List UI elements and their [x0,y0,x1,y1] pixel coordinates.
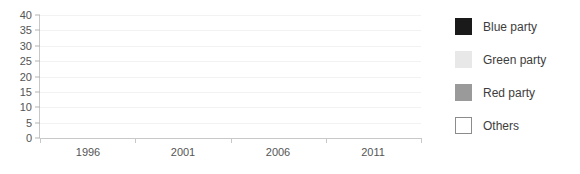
y-tick-label: 10 [20,102,40,113]
gridline [40,77,421,78]
gridline [40,30,421,31]
legend-item[interactable]: Red party [455,76,580,109]
y-tick-label: 40 [20,10,40,21]
legend-item[interactable]: Green party [455,43,580,76]
x-tick-label: 2006 [266,147,290,158]
y-tick-label: 30 [20,40,40,51]
plot-region: 4035302520151050 1996200120062011 [40,15,421,138]
gridline [40,123,421,124]
legend-swatch-icon [455,117,472,134]
x-tick-mark [135,138,136,143]
legend-item[interactable]: Others [455,109,580,142]
gridline [40,46,421,47]
y-tick-label: 15 [20,86,40,97]
legend-label: Others [483,119,519,133]
x-tick-mark [231,138,232,143]
x-tick-label: 2011 [361,147,385,158]
legend-swatch-icon [455,51,472,68]
legend-swatch-icon [455,18,472,35]
legend-label: Blue party [483,20,537,34]
y-tick-label: 25 [20,56,40,67]
x-tick-label: 1996 [76,147,100,158]
legend: Blue partyGreen partyRed partyOthers [455,10,580,142]
gridline [40,61,421,62]
y-tick-label: 35 [20,25,40,36]
x-tick-mark [326,138,327,143]
gridline [40,92,421,93]
legend-label: Red party [483,86,535,100]
gridline [40,107,421,108]
gridline [40,15,421,16]
chart-figure: 4035302520151050 1996200120062011 Blue p… [0,0,580,174]
y-tick-label: 0 [26,133,40,144]
x-tick-mark [421,138,422,143]
y-tick-label: 5 [26,117,40,128]
x-tick-label: 2001 [171,147,195,158]
legend-item[interactable]: Blue party [455,10,580,43]
y-tick-label: 20 [20,71,40,82]
x-tick-mark [40,138,41,143]
legend-label: Green party [483,53,546,67]
legend-swatch-icon [455,84,472,101]
